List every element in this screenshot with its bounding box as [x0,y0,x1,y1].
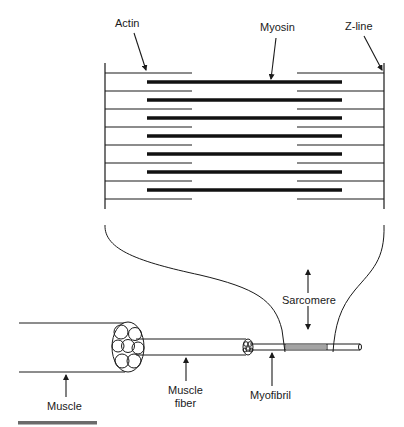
z-line-label: Z-line [345,20,373,33]
myosin-filaments [147,82,342,190]
myofibril-cylinder [250,344,362,350]
top-arrows [134,33,382,79]
magnification-curves [105,225,384,352]
myosin-label: Myosin [260,21,295,34]
actin-label: Actin [115,17,139,30]
z-line-arrow [364,36,382,70]
actin-arrow [134,33,146,70]
myofibril-label: Myofibril [250,389,291,402]
myosin-arrow [271,38,276,79]
muscle-cylinder [19,322,144,372]
muscle-fiber-label-line2: fiber [168,397,203,410]
muscle-fiber-cylinder [136,339,253,355]
sarcomere-label: Sarcomere [282,294,336,307]
muscle-fiber-label-line1: Muscle [168,384,203,397]
muscle-label: Muscle [47,400,82,413]
scale-bar [18,421,97,425]
muscle-fiber-label: Muscle fiber [168,384,203,410]
muscle-structure-diagram [0,0,404,427]
